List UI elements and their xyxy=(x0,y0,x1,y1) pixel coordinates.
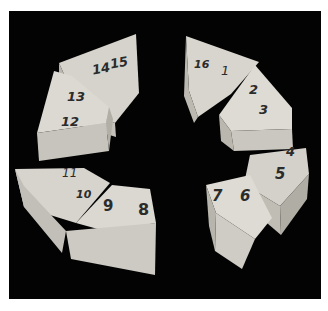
label-6: 6 xyxy=(240,189,250,204)
label-11: 11 xyxy=(62,167,77,179)
wood-blocks-scene xyxy=(9,11,321,299)
label-12: 12 xyxy=(61,115,79,128)
label-4: 4 xyxy=(286,145,295,158)
label-16: 16 xyxy=(194,59,209,70)
label-1: 1 xyxy=(221,64,229,77)
label-10: 10 xyxy=(76,189,91,200)
label-9: 9 xyxy=(103,199,113,214)
label-13: 13 xyxy=(67,90,85,103)
photo-frame: 14 15 13 12 16 1 2 3 4 5 7 6 9 8 11 10 xyxy=(9,11,321,299)
label-15: 15 xyxy=(109,55,129,71)
label-5: 5 xyxy=(275,167,285,182)
label-14: 14 xyxy=(91,61,111,77)
label-8: 8 xyxy=(138,202,149,218)
label-2: 2 xyxy=(249,83,258,96)
label-7: 7 xyxy=(212,189,222,204)
label-3: 3 xyxy=(259,103,268,116)
